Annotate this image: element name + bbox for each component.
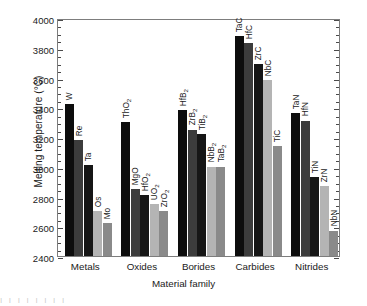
y-axis-tick	[58, 35, 61, 36]
y-axis-tick-label: 3000	[33, 163, 54, 174]
x-axis-title: Material family	[0, 278, 367, 289]
bar-label-TaN: TaN	[292, 94, 300, 109]
y-axis-tick	[58, 109, 63, 110]
bar-label-UO2: UO2	[151, 184, 159, 200]
bar-label-ZrB2: ZrB2	[188, 109, 196, 126]
bar-label-ZrC: ZrC	[254, 46, 262, 60]
chart-figure: Melting temperature (°C) 240026002800300…	[0, 0, 367, 306]
bar-Ta[interactable]: Ta	[84, 165, 93, 256]
y-axis-tick	[58, 161, 61, 162]
y-axis-tick	[58, 236, 61, 237]
y-axis-tick	[58, 124, 61, 125]
y-axis-tick	[58, 154, 61, 155]
y-axis-tick	[58, 20, 63, 21]
bar-HfO2[interactable]: HfO2	[140, 195, 149, 256]
bar-label-TiN: TiN	[311, 161, 319, 174]
bar-MgO[interactable]: MgO	[131, 189, 140, 256]
bar-group-metals: WReTaOsMo	[65, 20, 112, 256]
bar-NbC[interactable]: NbC	[263, 80, 272, 256]
y-axis-tick	[58, 102, 61, 103]
y-axis-tick-label: 2600	[33, 223, 54, 234]
y-axis-tick	[58, 117, 61, 118]
y-axis-tick	[58, 42, 61, 43]
scan-artifact: I I I I I I I I	[0, 296, 367, 306]
y-axis-tick-label: 3800	[33, 44, 54, 55]
y-axis-tick-label: 3400	[33, 104, 54, 115]
bar-label-TaC: TaC	[235, 17, 243, 32]
y-axis-tick-label: 2800	[33, 193, 54, 204]
y-axis-tick	[58, 27, 61, 28]
y-axis-tick	[58, 221, 61, 222]
bar-TiC[interactable]: TiC	[273, 146, 282, 256]
bar-ZrN[interactable]: ZrN	[320, 186, 329, 256]
bar-label-Os: Os	[94, 197, 102, 208]
y-axis-tick	[58, 176, 61, 177]
x-axis-tick-label-metals: Metals	[71, 261, 100, 272]
bar-Re[interactable]: Re	[74, 140, 83, 256]
y-axis-tick-label: 4000	[33, 15, 54, 26]
bar-NbN[interactable]: NbN	[329, 231, 338, 256]
bar-HfC[interactable]: HfC	[244, 43, 253, 256]
bar-group-carbides: TaCHfCZrCNbCTiC	[235, 20, 282, 256]
y-axis-tick	[58, 191, 61, 192]
bar-Mo[interactable]: Mo	[103, 223, 112, 256]
bar-ThO2[interactable]: ThO2	[121, 122, 130, 256]
bar-label-HfB2: HfB2	[179, 89, 187, 106]
x-axis-tick-label-carbides: Carbides	[235, 261, 274, 272]
bar-label-Ta: Ta	[85, 153, 93, 162]
bar-NbB2[interactable]: NbB2	[207, 167, 216, 256]
bar-label-ZrN: ZrN	[320, 168, 328, 182]
y-axis-tick	[58, 169, 63, 170]
bar-group-borides: HfB2ZrB2TiB2NbB2TaB2	[178, 20, 225, 256]
y-axis-tick	[58, 258, 63, 259]
y-axis-tick	[58, 132, 61, 133]
bar-label-HfN: HfN	[301, 102, 309, 116]
y-axis-tick	[58, 72, 61, 73]
bar-label-NbB2: NbB2	[207, 143, 215, 163]
bar-HfB2[interactable]: HfB2	[178, 110, 187, 256]
bar-HfN[interactable]: HfN	[301, 121, 310, 256]
plot-area: 240026002800300032003400360038004000WReT…	[57, 19, 340, 257]
bar-label-ZrO2: ZrO2	[160, 190, 168, 208]
bar-TaN[interactable]: TaN	[291, 113, 300, 256]
bar-TiN[interactable]: TiN	[310, 177, 319, 256]
y-axis-tick	[58, 228, 63, 229]
bar-label-Mo: Mo	[104, 208, 112, 220]
y-axis-tick-label: 2400	[33, 253, 54, 264]
y-axis-tick	[58, 213, 61, 214]
bar-TiB2[interactable]: TiB2	[197, 134, 206, 256]
bar-ZrO2[interactable]: ZrO2	[159, 211, 168, 256]
bar-TaB2[interactable]: TaB2	[216, 167, 225, 256]
bar-group-oxides: ThO2MgOHfO2UO2ZrO2	[121, 20, 168, 256]
y-axis-tick	[58, 65, 61, 66]
y-axis-tick	[58, 139, 63, 140]
y-axis-tick	[58, 206, 61, 207]
y-axis-tick	[58, 251, 61, 252]
y-axis-tick	[58, 146, 61, 147]
bar-group-nitrides: TaNHfNTiNZrNNbN	[291, 20, 338, 256]
bar-TaC[interactable]: TaC	[235, 36, 244, 256]
bar-label-TiC: TiC	[273, 129, 281, 142]
bar-label-TaB2: TaB2	[217, 145, 225, 163]
bar-label-ThO2: ThO2	[122, 99, 130, 119]
bar-label-W: W	[66, 92, 74, 100]
y-axis-tick	[58, 57, 61, 58]
bar-label-NbC: NbC	[264, 60, 272, 77]
y-axis-tick	[58, 199, 63, 200]
x-axis-tick-label-nitrides: Nitrides	[295, 261, 328, 272]
bar-label-TiB2: TiB2	[198, 114, 206, 130]
bar-ZrC[interactable]: ZrC	[254, 64, 263, 256]
y-axis-tick	[58, 184, 61, 185]
bar-label-Re: Re	[75, 125, 83, 136]
y-axis-tick	[58, 87, 61, 88]
bar-label-NbN: NbN	[330, 210, 338, 227]
bar-ZrB2[interactable]: ZrB2	[188, 130, 197, 256]
bar-label-MgO: MgO	[132, 167, 140, 185]
y-axis-tick	[58, 50, 63, 51]
x-axis-tick-label-oxides: Oxides	[127, 261, 158, 272]
y-axis-tick-label: 3600	[33, 74, 54, 85]
bar-UO2[interactable]: UO2	[150, 204, 159, 256]
y-axis-tick	[58, 94, 61, 95]
bar-Os[interactable]: Os	[93, 211, 102, 256]
bar-W[interactable]: W	[65, 104, 74, 256]
